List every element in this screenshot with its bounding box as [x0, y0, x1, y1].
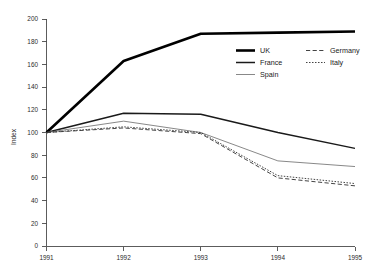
y-tick-label: 20 — [31, 220, 39, 227]
series-line-france — [47, 113, 356, 148]
y-tick-label: 160 — [27, 61, 38, 68]
chart-legend: UKFranceSpainGermanyItaly — [236, 46, 360, 79]
x-tick-label: 1995 — [348, 254, 363, 261]
x-tick-label: 1992 — [117, 254, 132, 261]
x-tick-label: 1991 — [39, 254, 54, 261]
series-line-germany — [47, 128, 356, 186]
y-tick-label-group: 020406080100120140160180200 — [27, 15, 38, 249]
legend-label-italy: Italy — [330, 58, 344, 67]
legend-label-germany: Germany — [330, 46, 360, 55]
y-tick-label: 60 — [31, 174, 39, 181]
y-axis: 020406080100120140160180200 Index — [10, 15, 47, 249]
x-tick-group — [47, 247, 356, 252]
y-tick-label: 120 — [27, 106, 38, 113]
legend-label-france: France — [260, 58, 282, 67]
series-line-italy — [47, 127, 356, 184]
series-group — [47, 31, 356, 185]
legend-label-uk: UK — [260, 46, 270, 55]
y-tick-label: 100 — [27, 129, 38, 136]
y-axis-title: Index — [10, 128, 17, 145]
x-tick-label: 1994 — [271, 254, 286, 261]
y-tick-label: 40 — [31, 197, 39, 204]
y-tick-label: 180 — [27, 38, 38, 45]
x-tick-label-group: 19911992199319941995 — [39, 254, 362, 261]
chart-canvas: 020406080100120140160180200 Index 199119… — [0, 0, 376, 275]
y-tick-label: 80 — [31, 152, 39, 159]
series-line-uk — [47, 31, 356, 132]
line-chart: 020406080100120140160180200 Index 199119… — [0, 0, 376, 275]
series-line-spain — [47, 121, 356, 166]
legend-label-spain: Spain — [260, 70, 278, 79]
x-axis: 19911992199319941995 — [39, 247, 362, 262]
y-tick-label: 140 — [27, 83, 38, 90]
y-tick-label: 200 — [27, 15, 38, 22]
x-tick-label: 1993 — [194, 254, 209, 261]
y-tick-group — [42, 19, 47, 246]
y-tick-label: 0 — [34, 242, 38, 249]
